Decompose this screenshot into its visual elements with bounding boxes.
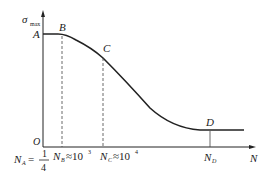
NC-val: ≈10 xyxy=(113,150,131,162)
point-C-label: C xyxy=(103,42,111,54)
fatigue-curve-diagram: σ max N O A B C D N A = 1 4 N B ≈10 3 N … xyxy=(0,0,267,180)
point-B-label: B xyxy=(59,21,66,33)
diagram-svg: σ max N O A B C D N A = 1 4 N B ≈10 3 N … xyxy=(0,0,267,180)
NC-exp: 4 xyxy=(135,149,138,155)
y-axis-arrow-icon xyxy=(41,10,45,17)
point-D-label: D xyxy=(205,116,214,128)
NC-label: N xyxy=(99,150,108,162)
ND-label: N xyxy=(203,151,212,163)
NB-sub: B xyxy=(61,157,65,163)
NB-val: ≈10 xyxy=(66,150,84,162)
NA-den: 4 xyxy=(41,162,46,173)
NA-label: N xyxy=(13,153,22,165)
NA-eq: = xyxy=(28,153,34,165)
NA-num: 1 xyxy=(42,148,47,159)
y-axis-sublabel: max xyxy=(30,21,40,27)
point-A-label: A xyxy=(32,28,40,40)
y-axis-label: σ xyxy=(22,13,28,25)
origin-label: O xyxy=(33,136,40,147)
NA-sub: A xyxy=(21,160,26,166)
NB-exp: 3 xyxy=(88,149,91,155)
NB-label: N xyxy=(52,150,61,162)
x-axis-label: N xyxy=(249,152,258,164)
ND-sub: D xyxy=(211,158,217,164)
x-axis-arrow-icon xyxy=(249,145,256,149)
